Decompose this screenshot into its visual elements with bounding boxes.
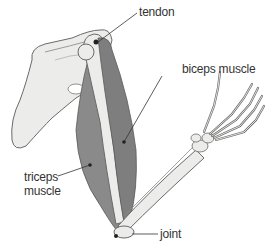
hand-bones <box>204 72 264 140</box>
biceps-leader <box>124 76 162 142</box>
triceps-label-line2: muscle <box>24 184 61 198</box>
tendon-marker <box>94 40 99 45</box>
arm-anatomy-diagram <box>0 0 278 247</box>
triceps-label-line1: triceps <box>24 170 61 184</box>
triceps-label: triceps muscle <box>24 170 61 198</box>
tendon-label: tendon <box>139 5 175 19</box>
tendon-leader <box>98 13 137 42</box>
wrist-bones <box>191 133 214 152</box>
biceps-label: biceps muscle <box>182 62 255 76</box>
elbow-joint <box>114 226 134 238</box>
joint-label: joint <box>160 227 181 241</box>
biceps-marker <box>122 140 126 144</box>
triceps-marker <box>88 163 92 167</box>
